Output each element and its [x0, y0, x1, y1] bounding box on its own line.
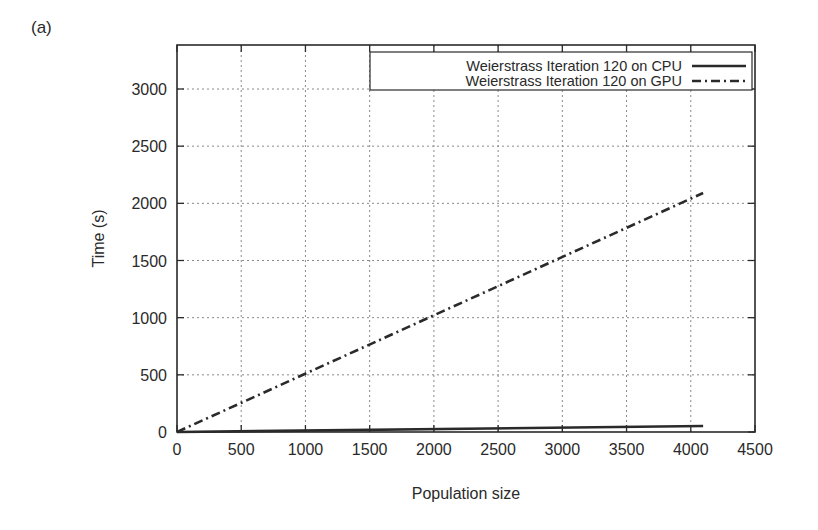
- y-tick-label: 2000: [131, 195, 167, 212]
- legend-label-gpu: Weierstrass Iteration 120 on GPU: [465, 73, 682, 89]
- plot-frame: [177, 45, 755, 432]
- x-axis-label: Population size: [412, 485, 521, 502]
- y-tick-label: 0: [158, 424, 167, 441]
- x-tick-label: 0: [173, 441, 182, 458]
- y-tick-label: 1500: [131, 253, 167, 270]
- x-tick-label: 500: [228, 441, 255, 458]
- line-chart: 0500100015002000250030003500400045000500…: [0, 0, 818, 530]
- legend-label-cpu: Weierstrass Iteration 120 on CPU: [466, 58, 682, 74]
- x-tick-label: 1000: [288, 441, 324, 458]
- series-line-gpu: [177, 193, 703, 432]
- y-tick-label: 1000: [131, 310, 167, 327]
- x-tick-label: 3500: [609, 441, 645, 458]
- y-tick-label: 500: [140, 367, 167, 384]
- y-tick-label: 3000: [131, 81, 167, 98]
- x-tick-label: 1500: [352, 441, 388, 458]
- y-axis-label: Time (s): [90, 209, 107, 267]
- x-tick-label: 2500: [480, 441, 516, 458]
- x-tick-label: 2000: [416, 441, 452, 458]
- series-line-cpu: [177, 426, 703, 432]
- y-tick-label: 2500: [131, 138, 167, 155]
- x-tick-label: 3000: [545, 441, 581, 458]
- x-tick-label: 4500: [737, 441, 773, 458]
- x-tick-label: 4000: [673, 441, 709, 458]
